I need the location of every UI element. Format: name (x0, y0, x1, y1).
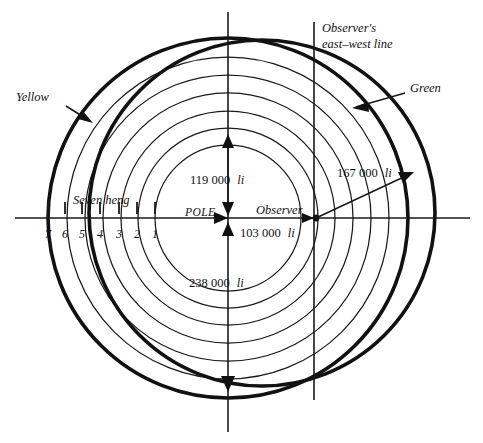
dim-119000-unit: li (237, 173, 244, 187)
green-label: Green (410, 81, 441, 95)
seven-heng-diagram: 7 6 5 4 3 2 1 Seven heng Yellow Green Ob… (0, 0, 483, 443)
dimension-167000: 167 000 li (316, 166, 414, 218)
dim-167000-unit: li (385, 166, 392, 180)
diagram-canvas: 7 6 5 4 3 2 1 Seven heng Yellow Green Ob… (0, 0, 483, 443)
observer-marker-left (302, 213, 314, 223)
observer-line-callout: Observer's east–west line (322, 21, 393, 51)
pole-left-arrow-head (214, 212, 228, 224)
yellow-arrow-head (78, 110, 93, 123)
tick-label-3: 3 (115, 227, 122, 241)
tick-label-1: 1 (152, 227, 158, 241)
dim-119000-arrow-up (222, 134, 234, 148)
dim-103000-unit: li (288, 226, 295, 240)
dim-119000-arrow-down (222, 202, 234, 216)
pole-label: POLE (184, 206, 215, 218)
dim-103000-value: 103 000 (240, 226, 281, 240)
dim-238000-label: 238 000 li (189, 276, 244, 290)
tick-label-7: 7 (45, 227, 52, 241)
dim-238000-unit: li (237, 276, 244, 290)
dim-119000-value: 119 000 (190, 173, 230, 187)
dim-103000-arrow-up (222, 222, 234, 236)
dimension-103000: 103 000 li (222, 222, 295, 240)
dim-167000-label: 167 000 li (337, 166, 392, 180)
dim-103000-label: 103 000 li (240, 226, 295, 240)
tick-label-2: 2 (134, 227, 140, 241)
observer-line-label-2: east–west line (322, 37, 393, 51)
yellow-label: Yellow (16, 90, 50, 104)
tick-label-6: 6 (62, 227, 68, 241)
dim-167000-line (316, 175, 408, 218)
observer-label: Observer (256, 203, 303, 217)
tick-label-5: 5 (79, 227, 85, 241)
dim-238000-value: 238 000 (189, 276, 230, 290)
green-arrow-head (352, 102, 369, 112)
tick-label-4: 4 (97, 227, 103, 241)
yellow-callout: Yellow (16, 90, 93, 123)
dim-167000-value: 167 000 (337, 166, 378, 180)
observer-line-label-1: Observer's (322, 21, 376, 35)
dim-119000-label: 119 000 li (190, 173, 245, 187)
seven-heng-label: Seven heng (73, 193, 130, 207)
green-callout: Green (352, 81, 441, 112)
